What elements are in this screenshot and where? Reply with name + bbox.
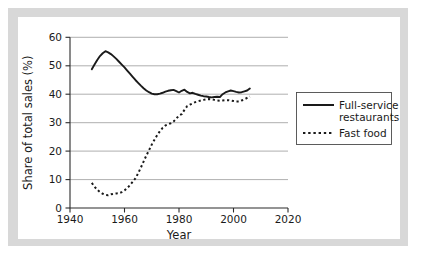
x-tick-labels: 1940 1960 1980 2000 2020	[57, 213, 302, 225]
x-axis-ticks	[70, 208, 288, 213]
y-tick-label: 40	[49, 88, 62, 100]
y-tick-label: 20	[49, 145, 62, 157]
y-tick-label: 30	[49, 116, 62, 128]
x-tick-label: 2000	[220, 213, 247, 225]
line-chart: 0 10 20 30 40 50 60 1940 1960 1980 2000 …	[0, 0, 424, 274]
x-tick-label: 1980	[166, 213, 193, 225]
x-tick-label: 2020	[275, 213, 302, 225]
x-tick-label: 1960	[111, 213, 138, 225]
figure-root: 0 10 20 30 40 50 60 1940 1960 1980 2000 …	[0, 0, 424, 274]
y-axis-title: Share of total sales (%)	[21, 56, 35, 190]
x-tick-label: 1940	[57, 213, 84, 225]
y-tick-label: 60	[49, 31, 62, 43]
y-tick-label: 10	[49, 173, 62, 185]
legend-label-fast-food: Fast food	[339, 127, 387, 139]
y-axis-ticks	[66, 37, 71, 208]
x-axis-title: Year	[166, 228, 192, 242]
gridlines	[70, 37, 288, 179]
y-tick-label: 50	[49, 59, 62, 71]
legend-label-full-service-line2: restaurants	[339, 111, 399, 123]
legend-label-full-service-line1: Full-service	[339, 99, 398, 111]
y-tick-labels: 0 10 20 30 40 50 60	[49, 31, 62, 214]
chart-legend: Full-service restaurants Fast food	[297, 93, 400, 145]
y-tick-label: 0	[55, 202, 62, 214]
series-fast-food	[92, 96, 250, 195]
series-full-service-restaurants	[92, 51, 250, 97]
